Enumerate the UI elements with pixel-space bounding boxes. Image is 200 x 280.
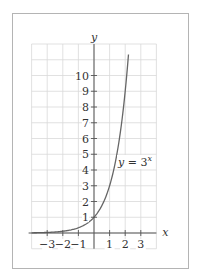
y-tick-label: 2	[82, 196, 89, 209]
curve-label-exponent: x	[147, 154, 152, 163]
y-tick-label: 1	[82, 211, 89, 224]
x-tick-label: 3	[137, 238, 144, 251]
curve-label-base: = 3	[124, 156, 147, 169]
y-tick-label: 9	[82, 85, 89, 98]
curve-label: y = 3x	[117, 154, 152, 169]
x-tick-label: −2	[55, 238, 71, 251]
y-axis-label: y	[90, 31, 98, 44]
x-tick-label: 2	[122, 238, 129, 251]
y-tick-label: 4	[82, 164, 89, 177]
y-tick-label: 5	[82, 148, 89, 161]
chart: −3−2−112312345678910xyy = 3x	[0, 0, 200, 280]
y-tick-label: 6	[82, 133, 89, 146]
x-tick-label: −3	[39, 238, 55, 251]
y-tick-label: 7	[82, 117, 89, 130]
y-tick-label: 8	[82, 101, 89, 114]
x-tick-label: 1	[106, 238, 113, 251]
y-tick-label: 10	[75, 70, 89, 83]
x-tick-label: −1	[70, 238, 86, 251]
y-tick-label: 3	[82, 180, 89, 193]
x-axis-label: x	[162, 226, 169, 239]
